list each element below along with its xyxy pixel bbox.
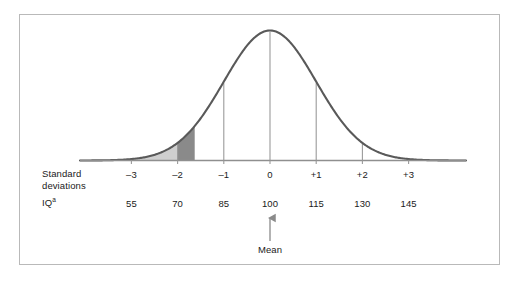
mean-annotation-label: Mean	[240, 244, 300, 256]
sd-value-6: +3	[389, 169, 429, 181]
sd-value-5: +2	[342, 169, 382, 181]
iq-value-2: 85	[204, 198, 244, 210]
iq-value-4: 115	[296, 198, 336, 210]
sd-value-3: 0	[250, 169, 290, 181]
sd-value-0: –3	[111, 169, 151, 181]
iq-row-label: IQa	[42, 197, 56, 209]
sd-label-line1: Standard	[42, 168, 81, 179]
iq-label-text: IQ	[42, 197, 52, 208]
sd-value-2: –1	[204, 169, 244, 181]
sd-value-1: –2	[158, 169, 198, 181]
iq-value-0: 55	[111, 198, 151, 210]
iq-value-1: 70	[158, 198, 198, 210]
sd-value-4: +1	[296, 169, 336, 181]
iq-footnote-marker: a	[52, 196, 56, 203]
chart-frame-border	[19, 14, 500, 265]
iq-value-6: 145	[389, 198, 429, 210]
standard-deviations-row-label: Standard deviations	[42, 168, 86, 191]
iq-value-3: 100	[250, 198, 290, 210]
sd-label-line2: deviations	[42, 180, 86, 191]
iq-value-5: 130	[342, 198, 382, 210]
figure-container: Standard deviations IQa –355–270–1850100…	[0, 0, 521, 286]
